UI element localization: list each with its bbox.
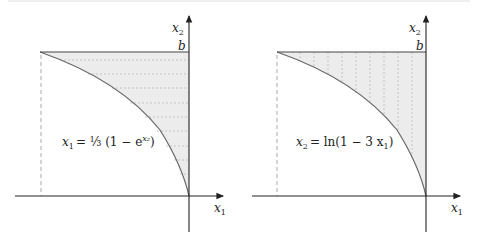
diagram-canvas: x2 b x1 x1= ⅓ (1 − ex₂) x2 b x1 x2= ln(1… [0, 0, 481, 241]
x-axis-label: x1 [214, 201, 226, 217]
shaded-region [277, 52, 426, 196]
equation: x2= ln(1 − 3 x1) [296, 135, 393, 151]
b-label: b [416, 39, 424, 53]
left-diagram: x2 b x1 x1= ⅓ (1 − ex₂) [15, 16, 226, 232]
equation: x1= ⅓ (1 − ex₂) [62, 134, 155, 151]
b-label: b [178, 39, 186, 53]
y-axis-label: x2 [172, 21, 184, 37]
y-axis-label: x2 [409, 21, 421, 37]
right-diagram: x2 b x1 x2= ln(1 − 3 x1) [252, 16, 463, 232]
shaded-region [40, 52, 189, 196]
x-axis-label: x1 [451, 201, 463, 217]
